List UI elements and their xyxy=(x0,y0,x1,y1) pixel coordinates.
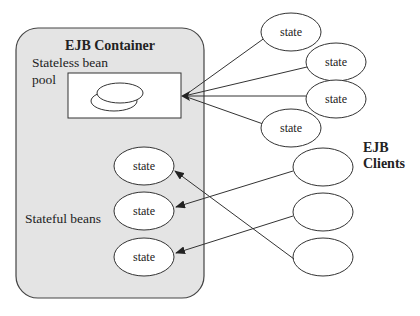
svg-text:state: state xyxy=(133,204,155,218)
stateful-bean: state xyxy=(114,147,174,185)
stateful-bean: state xyxy=(114,192,174,230)
pooled-bean-front xyxy=(97,83,143,103)
stateless-bean-pool xyxy=(68,73,181,118)
stateless-state: state xyxy=(306,43,366,81)
ejb-container: EJB Container Stateless bean pool Statef… xyxy=(16,28,204,298)
clients-title-line2: Clients xyxy=(363,156,406,171)
container-title: EJB Container xyxy=(65,38,155,53)
svg-text:state: state xyxy=(133,250,155,264)
stateless-pool-label-line1: Stateless bean xyxy=(32,55,108,70)
ejb-architecture-diagram: EJB Container Stateless bean pool Statef… xyxy=(0,0,420,316)
clients-title-line1: EJB xyxy=(363,140,389,155)
client xyxy=(293,238,353,276)
stateless-state: state xyxy=(261,109,321,147)
stateless-pool-label-line2: pool xyxy=(32,72,56,87)
svg-text:state: state xyxy=(133,159,155,173)
stateful-bean: state xyxy=(114,238,174,276)
svg-text:state: state xyxy=(325,55,347,69)
stateless-state: state xyxy=(306,80,366,118)
stateless-state: state xyxy=(261,13,321,51)
svg-text:state: state xyxy=(325,92,347,106)
client xyxy=(293,148,353,186)
svg-text:state: state xyxy=(280,25,302,39)
stateful-beans-label: Stateful beans xyxy=(25,211,101,226)
client xyxy=(293,193,353,231)
svg-text:state: state xyxy=(280,121,302,135)
